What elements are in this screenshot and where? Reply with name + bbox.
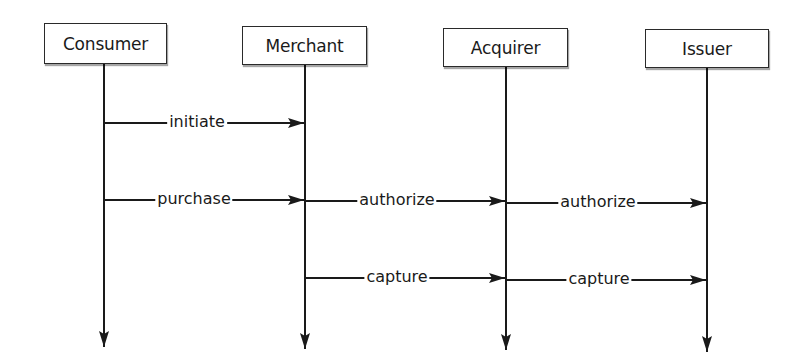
actor-label: Acquirer [471, 38, 540, 58]
actor-merchant: Merchant [242, 26, 367, 65]
actor-consumer: Consumer [44, 23, 167, 64]
message-purchase: purchase [155, 190, 232, 208]
sequence-diagram: Consumer Merchant Acquirer Issuer initia… [0, 0, 812, 359]
actor-label: Issuer [682, 39, 732, 59]
actor-label: Consumer [63, 34, 148, 54]
message-capture-acquirer-issuer: capture [566, 270, 631, 288]
message-initiate: initiate [167, 113, 227, 131]
actor-label: Merchant [265, 36, 343, 56]
message-capture-merchant-acquirer: capture [364, 268, 429, 286]
actor-acquirer: Acquirer [443, 28, 568, 67]
actor-issuer: Issuer [645, 29, 769, 68]
message-authorize-acquirer-issuer: authorize [558, 193, 637, 211]
message-authorize-merchant-acquirer: authorize [357, 191, 436, 209]
